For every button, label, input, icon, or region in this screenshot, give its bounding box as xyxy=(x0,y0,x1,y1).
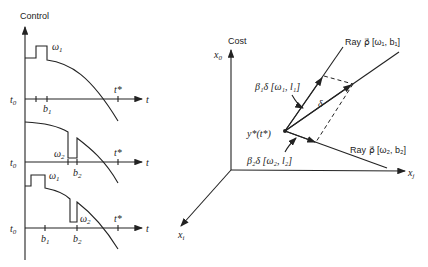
parallelogram-dash-side xyxy=(316,84,353,142)
control-curve-2 xyxy=(25,122,118,183)
diagram-canvas: Control t0 t t* b1 ω1 t0 t t* b2 ω2 xyxy=(0,0,428,267)
plot-combined: t0 t t* b1 b2 ω1 ω2 xyxy=(10,170,149,249)
xi-axis xyxy=(181,170,231,226)
omega2-label-2: ω2 xyxy=(54,148,65,161)
tstar-label-1: t* xyxy=(114,84,122,95)
t0-label-3: t0 xyxy=(10,223,17,236)
beta2-vector xyxy=(285,131,315,142)
t-label-3: t xyxy=(146,223,149,234)
b1-label-3: b1 xyxy=(41,233,50,246)
t0-label-2: t0 xyxy=(10,157,17,170)
omega2-label-3: ω2 xyxy=(80,213,91,226)
ray-1-label: Ray ρ⃗ [ω₁, b₁] xyxy=(345,37,400,47)
tstar-label-3: t* xyxy=(114,213,122,224)
beta1-pointer xyxy=(292,95,303,108)
parallelogram-dash-top xyxy=(324,76,353,84)
plot-perturbation-2: t0 t t* b2 ω2 xyxy=(10,122,149,183)
t-label-1: t xyxy=(146,94,149,105)
ray-2-label: Ray ρ⃗ [ω₂, b₂] xyxy=(350,145,406,155)
t-label-2: t xyxy=(146,157,149,168)
x0-label: x0 xyxy=(213,49,222,62)
xj-label: xj xyxy=(407,167,414,180)
control-curve-3 xyxy=(25,175,118,249)
xi-label: xi xyxy=(177,229,184,242)
beta2-label: β₂δ [ω₂, l₂] xyxy=(246,155,292,166)
omega1-label-1: ω1 xyxy=(52,41,63,54)
beta2-pointer xyxy=(285,138,296,152)
b2-label-2: b2 xyxy=(73,167,82,180)
t0-label-1: t0 xyxy=(10,94,17,107)
tstar-label-2: t* xyxy=(114,147,122,158)
b2-label-3: b2 xyxy=(73,233,82,246)
omega1-label-3: ω1 xyxy=(49,170,60,183)
cost-label: Cost xyxy=(228,36,247,46)
b1-label-1: b1 xyxy=(43,103,52,116)
right-panel: Cost x0 xj xi Ray ρ⃗ [ω₁, b₁] Ray ρ⃗ [ω₂… xyxy=(177,36,414,242)
delta-label: δ xyxy=(318,98,323,109)
control-curve-1 xyxy=(25,46,118,121)
control-axis-label: Control xyxy=(20,11,49,21)
optimal-point xyxy=(283,129,287,133)
plot-perturbation-1: t0 t t* b1 ω1 xyxy=(10,41,149,121)
beta1-label: β₁δ [ω₁, l₁] xyxy=(254,81,300,92)
left-panel: Control t0 t t* b1 ω1 t0 t t* b2 ω2 xyxy=(10,11,149,260)
point-label: y*(t*) xyxy=(246,128,272,140)
xj-axis xyxy=(231,170,405,171)
